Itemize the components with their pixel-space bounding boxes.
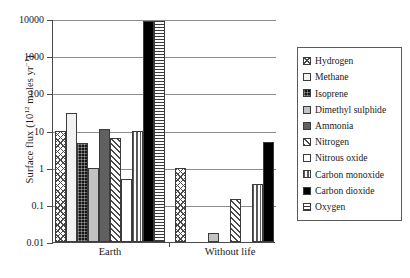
y-axis-tick bbox=[47, 20, 53, 21]
legend-item-hydrogen[interactable]: Hydrogen bbox=[303, 53, 397, 69]
x-axis-label-without-life: Without life bbox=[205, 246, 256, 257]
legend-label: Carbon dioxide bbox=[315, 186, 374, 196]
bar-group-earth bbox=[55, 19, 165, 242]
legend-item-dimethyl-sulphide[interactable]: Dimethyl sulphide bbox=[303, 102, 397, 118]
legend-label: Oxygen bbox=[315, 202, 345, 212]
bar-hydrogen-without-life[interactable] bbox=[175, 168, 186, 242]
y-axis-tick-label: 10000 bbox=[19, 15, 44, 25]
legend-swatch-oxygen-icon bbox=[303, 203, 311, 211]
bar-carbon-monoxide-without-life[interactable] bbox=[252, 184, 263, 242]
y-axis-tick-label: 10 bbox=[34, 127, 44, 137]
bar-nitrogen-without-life[interactable] bbox=[230, 199, 241, 242]
legend-label: Methane bbox=[315, 72, 349, 82]
bar-carbon-dioxide-without-life[interactable] bbox=[263, 142, 274, 242]
legend-item-methane[interactable]: Methane bbox=[303, 69, 397, 85]
y-axis-tick-label: 1 bbox=[39, 164, 44, 174]
legend-item-nitrogen[interactable]: Nitrogen bbox=[303, 134, 397, 150]
bar-oxygen-earth[interactable] bbox=[154, 21, 165, 242]
bar-carbon-monoxide-earth[interactable] bbox=[132, 131, 143, 243]
y-axis-tick bbox=[47, 94, 53, 95]
legend-swatch-nitrogen-icon bbox=[303, 138, 311, 146]
legend-label: Carbon monoxide bbox=[315, 170, 384, 180]
bar-dimethyl-sulphide-earth[interactable] bbox=[88, 168, 99, 242]
y-axis-tick-label: 0.1 bbox=[32, 201, 45, 211]
legend-label: Hydrogen bbox=[315, 56, 353, 66]
legend-label: Nitrogen bbox=[315, 137, 349, 147]
legend-swatch-isoprene-icon bbox=[303, 89, 311, 97]
y-axis-tick-label: 100 bbox=[29, 89, 44, 99]
y-axis-title-exponent-1: 12 bbox=[23, 106, 31, 113]
bar-isoprene-earth[interactable] bbox=[77, 143, 88, 242]
bar-carbon-dioxide-earth[interactable] bbox=[143, 21, 154, 242]
legend-item-nitrous-oxide[interactable]: Nitrous oxide bbox=[303, 150, 397, 166]
x-axis-group-separator bbox=[169, 242, 170, 247]
bar-methane-earth[interactable] bbox=[66, 113, 77, 242]
legend-item-oxygen[interactable]: Oxygen bbox=[303, 199, 397, 215]
legend-swatch-carbon-monoxide-icon bbox=[303, 170, 311, 178]
legend-label: Ammonia bbox=[315, 121, 353, 131]
y-axis-tick bbox=[47, 132, 53, 133]
legend-item-carbon-dioxide[interactable]: Carbon dioxide bbox=[303, 183, 397, 199]
legend-swatch-nitrous-oxide-icon bbox=[303, 154, 311, 162]
bar-nitrogen-earth[interactable] bbox=[110, 138, 121, 242]
y-axis-tick bbox=[47, 57, 53, 58]
y-axis-tick bbox=[47, 206, 53, 207]
bar-nitrous-oxide-earth[interactable] bbox=[121, 179, 132, 242]
bar-ammonia-earth[interactable] bbox=[99, 129, 110, 242]
legend-label: Dimethyl sulphide bbox=[315, 105, 386, 115]
legend: HydrogenMethaneIsopreneDimethyl sulphide… bbox=[297, 47, 402, 221]
y-axis-tick bbox=[47, 169, 53, 170]
chart-figure: Surface flux (1012 moles yr−1) 100001000… bbox=[0, 0, 410, 278]
legend-swatch-ammonia-icon bbox=[303, 122, 311, 130]
legend-swatch-dimethyl-sulphide-icon bbox=[303, 106, 311, 114]
legend-swatch-hydrogen-icon bbox=[303, 57, 311, 65]
plot-area: 1000010001001010.10.01 EarthWithout life bbox=[52, 20, 275, 243]
legend-label: Isoprene bbox=[315, 89, 348, 99]
y-axis-tick-label: 0.01 bbox=[27, 238, 45, 248]
y-axis-title-prefix: Surface flux (10 bbox=[24, 114, 35, 184]
bar-hydrogen-earth[interactable] bbox=[55, 131, 66, 243]
x-axis-label-earth: Earth bbox=[99, 246, 122, 257]
bar-group-without-life bbox=[175, 19, 285, 242]
legend-item-ammonia[interactable]: Ammonia bbox=[303, 118, 397, 134]
legend-item-isoprene[interactable]: Isoprene bbox=[303, 85, 397, 101]
y-axis-tick bbox=[47, 243, 53, 244]
legend-item-carbon-monoxide[interactable]: Carbon monoxide bbox=[303, 166, 397, 182]
legend-swatch-carbon-dioxide-icon bbox=[303, 187, 311, 195]
bar-dimethyl-sulphide-without-life[interactable] bbox=[208, 233, 219, 242]
legend-label: Nitrous oxide bbox=[315, 153, 368, 163]
y-axis-title-middle: moles yr bbox=[24, 66, 35, 106]
legend-swatch-methane-icon bbox=[303, 73, 311, 81]
y-axis-tick-label: 1000 bbox=[24, 52, 44, 62]
